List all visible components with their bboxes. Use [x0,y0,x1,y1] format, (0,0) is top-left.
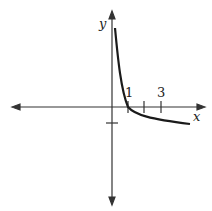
plot-area [0,0,212,211]
y-axis-label: y [99,17,106,30]
y-axis-up-arrow-icon [109,11,115,19]
graph: y x 1 3 [0,0,212,211]
x-axis-left-arrow-icon [12,104,20,110]
x-tick-label-1: 1 [125,86,133,99]
x-axis-label: x [193,110,200,123]
x-tick-label-3: 3 [157,86,165,99]
curve [115,28,190,124]
y-axis-down-arrow-icon [109,197,115,205]
